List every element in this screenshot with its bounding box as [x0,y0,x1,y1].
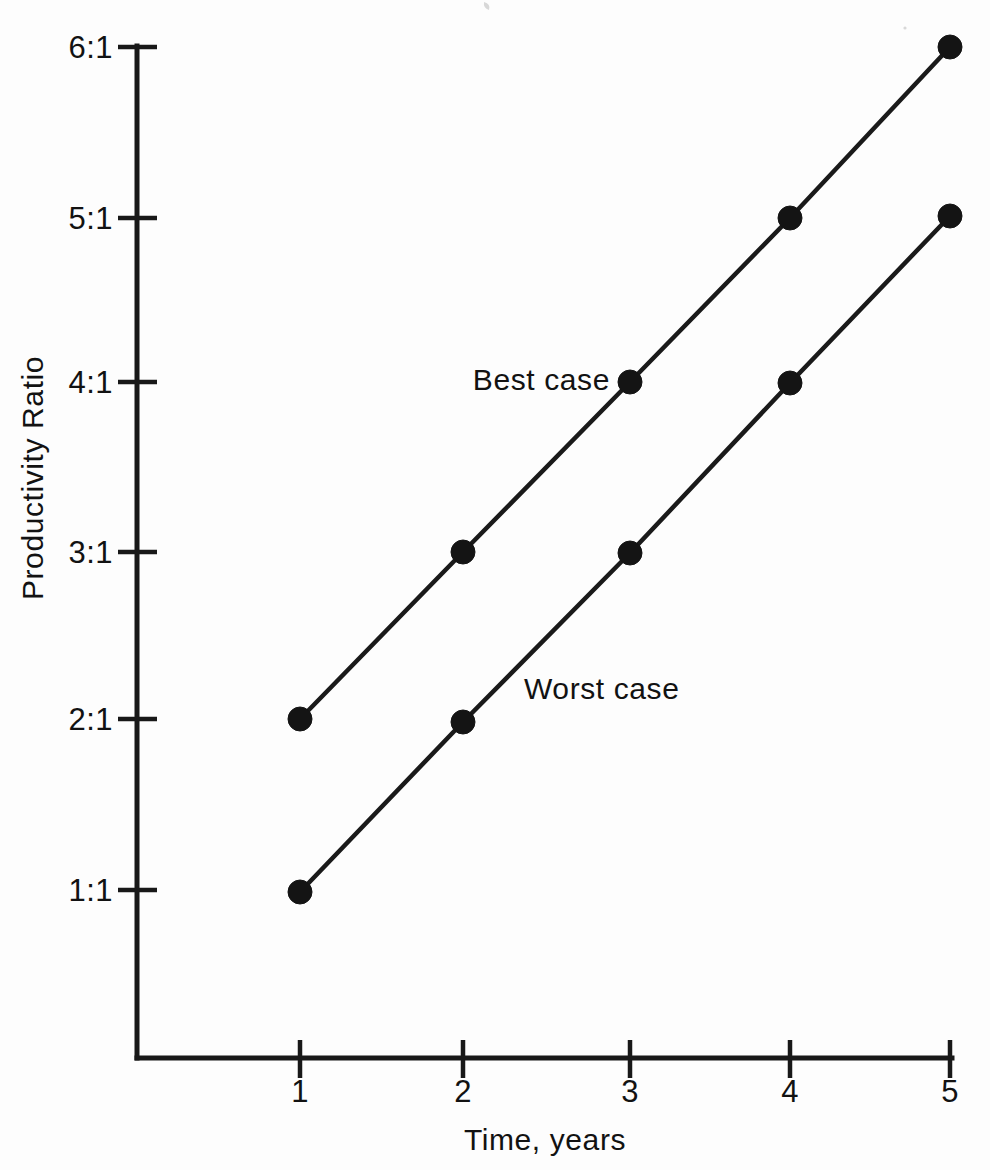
axis-titles: Productivity Ratio Time, years [16,356,626,1156]
best-case-label: Best case [473,363,610,396]
scan-artifacts [484,2,907,30]
x-tick-label-5: 5 [941,1074,959,1109]
x-tick-label-3: 3 [621,1074,639,1109]
x-axis-title: Time, years [464,1123,626,1156]
x-tick-label-1: 1 [291,1074,309,1109]
best-case-point [778,206,802,230]
chart-figure: 6:1 5:1 4:1 3:1 2:1 1:1 1 2 3 4 5 [0,0,990,1170]
worst-case-point [451,710,475,734]
y-tick-label-4-1: 4:1 [68,365,113,400]
worst-case-label: Worst case [524,672,680,705]
y-axis-tick-labels: 6:1 5:1 4:1 3:1 2:1 1:1 [68,30,113,908]
best-case-point [618,370,642,394]
worst-case-point [288,880,312,904]
worst-case-point [938,204,962,228]
axis-lines [137,46,952,1058]
x-tick-label-2: 2 [454,1074,472,1109]
worst-case-point [618,541,642,565]
y-tick-label-1-1: 1:1 [68,873,113,908]
y-tick-label-5-1: 5:1 [68,201,113,236]
x-tick-label-4: 4 [781,1074,799,1109]
y-axis-title: Productivity Ratio [16,356,49,600]
series-best-case [288,35,962,731]
best-case-point [451,540,475,564]
y-tick-label-3-1: 3:1 [68,535,113,570]
worst-case-point [778,371,802,395]
best-case-point [288,707,312,731]
y-tick-label-6-1: 6:1 [68,30,113,65]
productivity-ratio-line-chart: 6:1 5:1 4:1 3:1 2:1 1:1 1 2 3 4 5 [0,0,990,1170]
series-worst-case [288,204,962,904]
x-axis-tick-labels: 1 2 3 4 5 [291,1074,959,1109]
y-tick-label-2-1: 2:1 [68,702,113,737]
best-case-point [938,35,962,59]
